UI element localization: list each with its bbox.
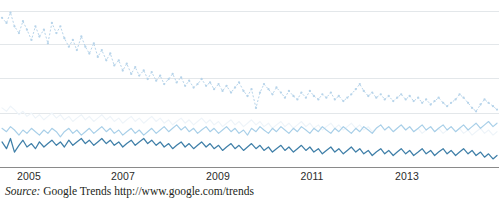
series-marker <box>363 90 365 92</box>
x-tick-label-2009: 2009 <box>206 170 230 182</box>
series-marker <box>496 108 498 110</box>
series-marker <box>359 83 361 85</box>
series-marker <box>59 25 61 27</box>
series-marker <box>446 105 448 107</box>
series-marker <box>172 73 174 75</box>
series-marker <box>275 86 277 88</box>
series-marker <box>246 95 248 97</box>
series-marker <box>350 93 352 95</box>
series-marker <box>230 91 232 93</box>
series-marker <box>458 93 460 95</box>
series-marker <box>155 80 157 82</box>
gridlines <box>0 12 499 114</box>
series-marker <box>425 98 427 100</box>
series-marker <box>205 85 207 87</box>
series-marker <box>338 95 340 97</box>
series-marker <box>321 93 323 95</box>
series-line <box>2 13 497 112</box>
series-marker <box>101 49 103 51</box>
x-tick-label-2013: 2013 <box>395 170 419 182</box>
series-marker <box>342 100 344 102</box>
series-marker <box>188 80 190 82</box>
series-marker <box>417 97 419 99</box>
series-marker <box>63 37 65 39</box>
series-marker <box>209 81 211 83</box>
series-marker <box>400 93 402 95</box>
google-trends-chart-figure: 20052007200920112013 Source: Google Tren… <box>0 0 499 203</box>
source-caption: Source: Google Trends http://www.google.… <box>5 185 254 197</box>
series-marker <box>196 83 198 85</box>
series-marker <box>429 103 431 105</box>
series-marker <box>109 52 111 54</box>
series-marker <box>467 102 469 104</box>
series-marker <box>200 78 202 80</box>
series-marker <box>180 76 182 78</box>
series-marker <box>371 91 373 93</box>
series-marker <box>1 17 3 19</box>
series-marker <box>284 97 286 99</box>
series-marker <box>259 91 261 93</box>
series-marker <box>492 105 494 107</box>
series-marker <box>292 95 294 97</box>
series-marker <box>317 98 319 100</box>
series-series-light <box>2 122 497 137</box>
series-marker <box>51 22 53 24</box>
chart-svg <box>0 0 499 168</box>
series-marker <box>26 29 28 31</box>
series-marker <box>55 32 57 34</box>
series-marker <box>5 22 7 24</box>
series-marker <box>325 97 327 99</box>
x-tick-label-2005: 2005 <box>17 170 41 182</box>
series-marker <box>367 95 369 97</box>
series-marker <box>396 97 398 99</box>
series-marker <box>143 69 145 71</box>
series-marker <box>483 98 485 100</box>
series-marker <box>72 39 74 41</box>
series-marker <box>9 12 11 14</box>
series-marker <box>159 74 161 76</box>
series-marker <box>134 66 136 68</box>
series-marker <box>217 83 219 85</box>
series-marker <box>88 52 90 54</box>
series-marker <box>184 85 186 87</box>
series-marker <box>225 85 227 87</box>
series-marker <box>271 93 273 95</box>
series-marker <box>38 35 40 37</box>
series-marker <box>380 93 382 95</box>
series-marker <box>30 39 32 41</box>
series-marker <box>84 46 86 48</box>
series-marker <box>388 95 390 97</box>
series-marker <box>437 97 439 99</box>
series-marker <box>413 100 415 102</box>
series-marker <box>454 98 456 100</box>
series-marker <box>330 91 332 93</box>
series-marker <box>151 71 153 73</box>
series-marker <box>130 73 132 75</box>
series-series-dotted <box>1 12 498 113</box>
series-marker <box>433 100 435 102</box>
series-marker <box>80 35 82 37</box>
series-marker <box>267 88 269 90</box>
series-marker <box>213 88 215 90</box>
series-marker <box>242 90 244 92</box>
series-marker <box>126 63 128 65</box>
series-marker <box>471 107 473 109</box>
series-marker <box>221 90 223 92</box>
series-marker <box>409 95 411 97</box>
series-marker <box>405 98 407 100</box>
series-marker <box>475 110 477 112</box>
series-marker <box>238 81 240 83</box>
series-marker <box>176 81 178 83</box>
series-marker <box>355 88 357 90</box>
chart-plot-area <box>0 0 499 168</box>
series-marker <box>487 102 489 104</box>
series-marker <box>76 49 78 51</box>
x-tick-label-2007: 2007 <box>111 170 135 182</box>
series-marker <box>300 91 302 93</box>
series-marker <box>168 78 170 80</box>
series-marker <box>384 98 386 100</box>
series-marker <box>346 97 348 99</box>
series-series-dark <box>2 139 497 159</box>
series-marker <box>22 20 24 22</box>
x-tick-label-2011: 2011 <box>301 170 324 182</box>
